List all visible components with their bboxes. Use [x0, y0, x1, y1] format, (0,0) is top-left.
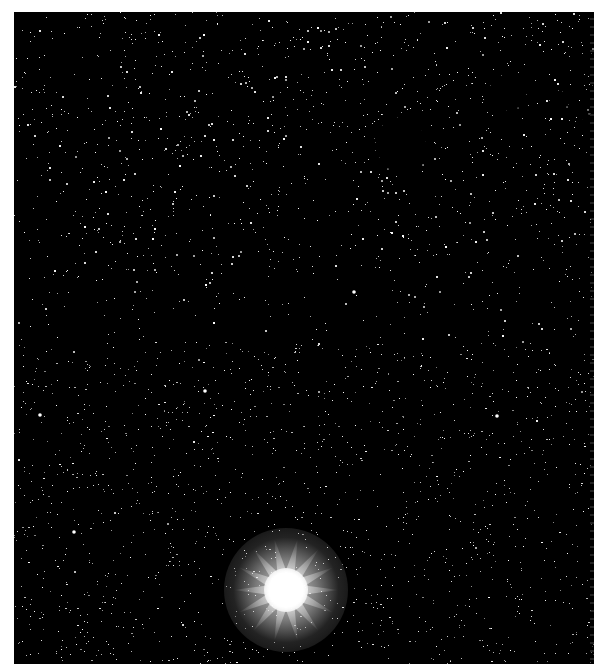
dark-globule	[554, 92, 570, 106]
dark-globule	[490, 78, 524, 110]
film-edge	[590, 12, 594, 664]
dark-globule	[378, 118, 426, 172]
star-field-photograph	[14, 12, 594, 664]
dark-globule	[582, 114, 590, 122]
